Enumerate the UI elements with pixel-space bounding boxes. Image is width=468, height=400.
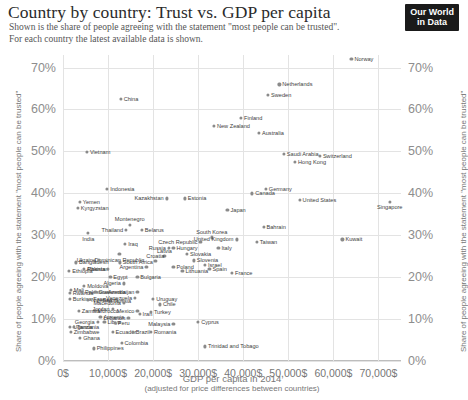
subtitle-line-1: Shown is the share of people agreeing wi… xyxy=(9,22,389,34)
data-point-label: Bahrain xyxy=(267,224,286,230)
data-point[interactable] xyxy=(197,320,200,323)
data-point[interactable] xyxy=(103,320,106,323)
data-point[interactable] xyxy=(149,330,152,333)
data-point-label: Slovakia xyxy=(190,251,211,257)
data-point[interactable] xyxy=(158,303,161,306)
data-point[interactable] xyxy=(145,265,148,268)
data-point-label: Croatia xyxy=(146,253,164,259)
logo-line-2: in Data xyxy=(410,17,454,27)
data-point-label: Romania xyxy=(154,329,176,335)
data-point[interactable] xyxy=(68,291,71,294)
data-point[interactable] xyxy=(124,228,127,231)
data-point[interactable] xyxy=(154,260,157,263)
data-point-label: Hungary xyxy=(176,245,197,251)
data-point[interactable] xyxy=(124,242,127,245)
data-point[interactable] xyxy=(122,302,125,305)
data-point[interactable] xyxy=(251,192,254,195)
data-point-label: Chile xyxy=(163,301,176,307)
data-point[interactable] xyxy=(140,228,143,231)
data-point[interactable] xyxy=(68,297,71,300)
data-point[interactable] xyxy=(293,160,296,163)
x-gridline xyxy=(198,55,199,361)
data-point[interactable] xyxy=(78,200,81,203)
data-point[interactable] xyxy=(109,276,112,279)
data-point[interactable] xyxy=(79,336,82,339)
data-point[interactable] xyxy=(111,330,114,333)
data-point[interactable] xyxy=(172,265,175,268)
data-point-label: Colombia xyxy=(125,340,149,346)
data-point[interactable] xyxy=(266,93,269,96)
data-point[interactable] xyxy=(77,309,80,312)
data-point-label: Montenegro xyxy=(115,216,145,222)
data-point[interactable] xyxy=(230,271,233,274)
data-point-label: Switzerland xyxy=(323,153,352,159)
data-point[interactable] xyxy=(185,253,188,256)
data-point[interactable] xyxy=(212,125,215,128)
y-axis-tick-label-left: 20% xyxy=(31,270,56,284)
data-point[interactable] xyxy=(257,131,260,134)
data-point[interactable] xyxy=(172,323,175,326)
data-point[interactable] xyxy=(69,330,72,333)
data-point[interactable] xyxy=(217,246,220,249)
data-point[interactable] xyxy=(136,290,139,293)
data-point[interactable] xyxy=(152,297,155,300)
data-point[interactable] xyxy=(134,297,137,300)
data-point[interactable] xyxy=(203,263,206,266)
data-point-label: Ghana xyxy=(83,335,100,341)
data-point-label: Turkey xyxy=(154,309,171,315)
data-point-label: Indonesia xyxy=(110,186,134,192)
data-point[interactable] xyxy=(122,282,125,285)
data-point-label: Lithuania xyxy=(185,268,208,274)
scatter-plot-area: 0$10,000$20,000$30,000$40,000$50,000$60,… xyxy=(63,55,401,361)
data-point-label: Zimbabwe xyxy=(74,329,100,335)
data-point-label: Estonia xyxy=(188,195,207,201)
data-point[interactable] xyxy=(85,151,88,154)
data-point[interactable] xyxy=(298,198,301,201)
data-point[interactable] xyxy=(388,200,391,203)
data-point[interactable] xyxy=(172,246,175,249)
data-point[interactable] xyxy=(350,58,353,61)
data-point-label: South Korea xyxy=(196,229,227,235)
data-point-label: Saudi Arabia xyxy=(287,151,319,157)
data-point[interactable] xyxy=(68,269,71,272)
data-point[interactable] xyxy=(262,225,265,228)
our-world-in-data-logo[interactable]: Our World in Data xyxy=(405,4,459,31)
data-point[interactable] xyxy=(165,197,168,200)
data-point[interactable] xyxy=(235,238,238,241)
y-axis-tick-label-right: 70% xyxy=(408,61,433,75)
data-point[interactable] xyxy=(341,238,344,241)
data-point[interactable] xyxy=(239,116,242,119)
data-point-label: Peru xyxy=(118,320,130,326)
data-point-label: Finland xyxy=(244,115,262,121)
data-point[interactable] xyxy=(128,223,131,226)
data-point-label: Philippines xyxy=(97,345,124,351)
data-point-label: Japan xyxy=(230,207,245,213)
data-point[interactable] xyxy=(226,209,229,212)
data-point[interactable] xyxy=(136,276,139,279)
chart-subtitle: Shown is the share of people agreeing wi… xyxy=(9,22,389,45)
data-point-label: Kuwait xyxy=(345,236,362,242)
page-title: Country by country: Trust vs. GDP per ca… xyxy=(8,2,331,23)
data-point[interactable] xyxy=(120,341,123,344)
y-axis-tick-label-right: 30% xyxy=(408,228,433,242)
data-point[interactable] xyxy=(183,197,186,200)
y-gridline xyxy=(63,68,401,69)
data-point[interactable] xyxy=(278,83,281,86)
data-point[interactable] xyxy=(318,154,321,157)
data-point[interactable] xyxy=(76,206,79,209)
data-point[interactable] xyxy=(192,259,195,262)
data-point[interactable] xyxy=(199,240,202,243)
data-point[interactable] xyxy=(106,267,109,270)
data-point[interactable] xyxy=(203,345,206,348)
data-point-label: Azerbaijan xyxy=(108,289,134,295)
subtitle-line-2: For each country the latest available da… xyxy=(9,34,389,46)
data-point[interactable] xyxy=(255,240,258,243)
data-point[interactable] xyxy=(181,269,184,272)
data-point[interactable] xyxy=(92,347,95,350)
data-point[interactable] xyxy=(119,97,122,100)
y-axis-tick-label-right: 40% xyxy=(408,186,433,200)
data-point[interactable] xyxy=(118,253,121,256)
y-axis-tick-label-left: 60% xyxy=(31,102,56,116)
data-point[interactable] xyxy=(138,312,141,315)
data-point[interactable] xyxy=(282,152,285,155)
